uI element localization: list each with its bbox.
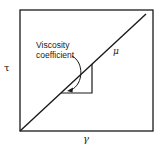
line-label-mu: μ — [113, 47, 119, 56]
diagram-graphics — [0, 0, 164, 153]
annotation-arrow — [71, 56, 81, 90]
viscosity-annotation: Viscosity coefficient — [36, 40, 74, 60]
linear-relation-line — [20, 14, 146, 131]
viscosity-diagram: τ γ μ Viscosity coefficient — [0, 0, 164, 153]
y-axis-label: τ — [4, 63, 10, 73]
annotation-line-1: Viscosity — [36, 40, 74, 50]
arrow-head-icon — [67, 88, 73, 93]
x-axis-label: γ — [83, 134, 89, 144]
annotation-line-2: coefficient — [36, 50, 74, 60]
